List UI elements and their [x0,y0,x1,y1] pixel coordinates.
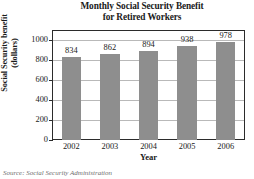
x-axis-title: Year [52,153,245,162]
chart-title: Monthly Social Security Benefit for Reti… [36,1,248,22]
x-tick-label: 2002 [55,143,87,151]
source-note: Source: Social Security Administration [3,170,112,178]
chart-title-line-2: for Retired Workers [36,12,248,23]
bar-value-label: 862 [94,44,126,52]
y-tick-label: 1000 [8,36,48,44]
bar-value-label: 978 [210,32,242,40]
chart-title-line-1: Monthly Social Security Benefit [80,1,203,11]
x-tick-label: 2005 [171,143,203,151]
y-tick-label: 0 [8,136,48,144]
bar [139,51,158,140]
x-tick-label: 2004 [133,143,165,151]
y-tick-label: 800 [8,56,48,64]
x-tick-label: 2006 [210,143,242,151]
bar [216,42,235,140]
bar-value-label: 834 [55,47,87,55]
y-tick-mark [49,140,53,141]
bar [177,46,196,140]
bars-layer: 834 862 894 938 978 [52,30,245,140]
x-tick-label: 2003 [94,143,126,151]
bar-value-label: 938 [171,36,203,44]
bar [100,54,119,140]
y-tick-label: 400 [8,96,48,104]
y-axis-tick-labels: 0 200 400 600 800 1000 [4,30,48,140]
chart-figure: Monthly Social Security Benefit for Reti… [0,0,254,179]
y-tick-label: 200 [8,116,48,124]
bar-value-label: 894 [133,41,165,49]
y-tick-label: 600 [8,76,48,84]
bar [62,57,81,140]
